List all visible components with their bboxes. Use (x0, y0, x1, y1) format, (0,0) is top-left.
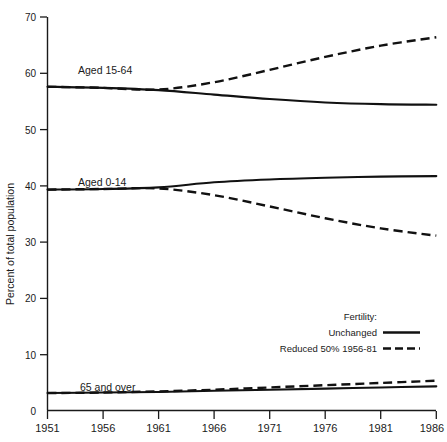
x-tick-label-1951: 1951 (35, 422, 59, 434)
series-line-aged-0-14-reduced-50-1956-81 (48, 188, 437, 236)
y-tick-label-70: 70 (25, 12, 37, 23)
x-tick-label-1981: 1981 (368, 422, 392, 434)
x-tick-label-1956: 1956 (91, 422, 115, 434)
series-annotation-aged-0-14: Aged 0-14 (78, 176, 127, 188)
series-annotation-aged-15-64: Aged 15-64 (78, 64, 132, 76)
legend-label-reduced: Reduced 50% 1956-81 (280, 343, 377, 354)
x-tick-label-1961: 1961 (146, 422, 170, 434)
chart-figure: 70 60 50 40 30 20 10 0 Percent of total … (0, 0, 447, 442)
y-tick-label-50: 50 (25, 125, 37, 136)
legend: Fertility: Unchanged Reduced 50% 1956-81 (280, 311, 420, 354)
y-tick-label-10: 10 (25, 350, 37, 361)
series-line-aged-15-64-unchanged (48, 87, 437, 105)
y-tick-label-60: 60 (25, 68, 37, 79)
y-axis-title: Percent of total population (4, 183, 16, 305)
x-axis-tick-labels: 1951 1956 1961 1966 1971 1976 1981 1986 (35, 422, 444, 434)
y-tick-label-40: 40 (25, 181, 37, 192)
legend-label-unchanged: Unchanged (328, 327, 377, 338)
x-axis-ticks (48, 411, 437, 419)
legend-title: Fertility: (344, 311, 377, 322)
y-axis-ticks (40, 17, 47, 355)
x-tick-label-1976: 1976 (313, 422, 337, 434)
y-tick-label-30: 30 (25, 237, 37, 248)
line-chart: 70 60 50 40 30 20 10 0 Percent of total … (0, 0, 447, 442)
y-tick-label-20: 20 (25, 293, 37, 304)
data-series-layer (48, 37, 437, 393)
x-tick-label-1986: 1986 (420, 422, 444, 434)
y-axis-tick-labels: 70 60 50 40 30 20 10 0 (25, 12, 37, 417)
x-tick-label-1966: 1966 (202, 422, 226, 434)
series-annotation-65-and-over: 65 and over (80, 381, 136, 393)
y-tick-label-0: 0 (30, 406, 36, 417)
x-tick-label-1971: 1971 (257, 422, 281, 434)
